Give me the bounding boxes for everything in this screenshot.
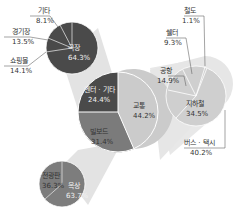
label-enter-name: 엔터 · 기타 (84, 85, 116, 94)
label-subway-name: 지하철 (186, 99, 204, 108)
label-rail-name: 철도 (184, 6, 197, 15)
label-subway-pct: 34.5% (186, 110, 209, 118)
label-screen-pct: 36.3% (42, 182, 65, 190)
label-rooftop-pct: 63.7% (66, 192, 89, 200)
label-mall-pct: 14.1% (10, 67, 33, 75)
label-stadium-pct: 13.5% (12, 38, 35, 46)
label-billboard-pct: 31.4% (91, 138, 114, 146)
label-enter-pct: 24.4% (88, 96, 111, 104)
label-rooftop-name: 옥상 (68, 181, 81, 190)
label-transport-name: 교통 (133, 102, 146, 110)
label-shelter-pct: 9.3% (164, 39, 182, 47)
label-bus-name: 버스 · 택시 (184, 138, 215, 147)
label-bus-pct: 40.2% (190, 149, 213, 157)
label-other-pct: 8.1% (36, 17, 54, 25)
label-screen-name: 전광판 (42, 171, 61, 180)
pie-of-pie-diagram: 기타 8.1% 경기장 13.5% 쇼핑몰 14.1% 극장 64.3% 엔터 … (0, 0, 241, 219)
label-mall-name: 쇼핑몰 (10, 56, 29, 65)
label-theater-pct: 64.3% (68, 54, 91, 62)
label-airport-pct: 14.9% (157, 77, 180, 85)
label-airport-name: 공항 (160, 66, 173, 75)
label-billboard-name: 빌보드 (90, 128, 109, 136)
label-stadium-name: 경기장 (12, 27, 31, 36)
label-transport-pct: 44.2% (133, 112, 156, 120)
label-rail-pct: 1.1% (182, 17, 200, 25)
label-shelter-name: 쉘터 (166, 28, 178, 37)
label-other-name: 기타 (38, 6, 51, 15)
label-theater-name: 극장 (68, 43, 81, 52)
